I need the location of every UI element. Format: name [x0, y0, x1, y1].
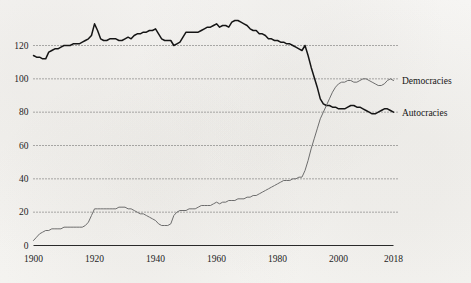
y-tick-label: 40 [19, 174, 29, 184]
y-tick-label: 0 [24, 241, 29, 251]
gridlines [34, 46, 398, 213]
x-tick-label: 2000 [329, 254, 348, 264]
x-tick-label: 1980 [268, 254, 287, 264]
y-tick-label: 60 [19, 141, 29, 151]
line-chart: 020406080100120 190019201940196019802000… [0, 0, 471, 283]
y-tick-label: 80 [19, 107, 29, 117]
y-axis-tick-labels: 020406080100120 [14, 41, 29, 251]
series-line-autocracies [34, 21, 394, 114]
x-tick-label: 1940 [146, 254, 165, 264]
chart-svg: 020406080100120 190019201940196019802000… [0, 0, 471, 283]
y-tick-label: 100 [14, 74, 29, 84]
series-line-democracies [34, 79, 394, 241]
x-tick-label: 1900 [24, 254, 43, 264]
series-lines [34, 21, 394, 241]
legend: DemocraciesAutocracies [402, 76, 452, 118]
legend-label-autocracies: Autocracies [402, 108, 448, 118]
x-tick-label: 1960 [207, 254, 226, 264]
x-tick-label: 1920 [85, 254, 104, 264]
y-tick-label: 120 [14, 41, 29, 51]
x-tick-label: 2018 [384, 254, 403, 264]
x-axis-tick-labels: 1900192019401960198020002018 [24, 254, 403, 264]
y-tick-label: 20 [19, 207, 29, 217]
legend-label-democracies: Democracies [402, 76, 452, 86]
